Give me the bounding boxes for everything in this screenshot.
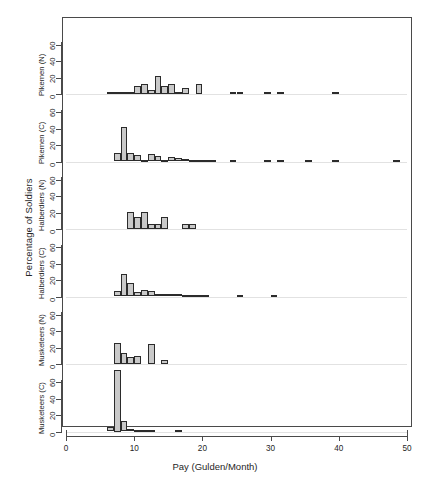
histogram-bar: [264, 160, 271, 162]
histogram-bar: [141, 160, 148, 162]
histogram-bar: [161, 360, 168, 364]
histogram-bar: [175, 92, 182, 94]
histogram-bar: [332, 160, 339, 162]
chart-root: Percentage of Soldiers 0204060Pikemen (N…: [0, 0, 430, 487]
panel-y-axis-line: [61, 110, 62, 163]
histogram-bar: [182, 224, 189, 229]
histogram-bar: [277, 160, 284, 162]
histogram-bar: [141, 84, 148, 94]
x-tick-mark: [271, 436, 272, 441]
panel-label: Pikemen (N): [37, 54, 46, 96]
histogram-bar: [134, 356, 141, 364]
x-tick-mark: [66, 436, 67, 441]
histogram-bar: [114, 92, 121, 94]
histogram-bar: [237, 92, 244, 94]
histogram-bar: [148, 430, 155, 432]
y-tick-label: 0: [48, 432, 57, 436]
y-tick-label: 0: [48, 162, 57, 166]
panel-baseline: [66, 364, 407, 365]
y-tick-label: 40: [48, 58, 57, 66]
y-tick-label: 0: [48, 365, 57, 369]
histogram-bar: [155, 294, 162, 297]
y-tick-label: 0: [48, 230, 57, 234]
histogram-bar: [277, 92, 284, 94]
histogram-bar: [196, 84, 203, 94]
histogram-bar: [189, 224, 196, 229]
panel-label: Halberdiers (C): [37, 247, 46, 298]
histogram-bar: [114, 153, 121, 161]
x-axis-title: Pay (Gulden/Month): [0, 461, 430, 472]
histogram-bar: [141, 430, 148, 432]
histogram-bar: [148, 154, 155, 161]
panel-baseline: [66, 229, 407, 230]
panel-label: Musketeers (N): [37, 314, 46, 366]
y-tick-label: 60: [48, 379, 57, 387]
histogram-bar: [134, 155, 141, 162]
histogram-bar: [175, 158, 182, 161]
histogram-bar: [230, 92, 237, 94]
histogram-bar: [148, 344, 155, 364]
histogram-bar: [332, 92, 339, 94]
x-tick-mark: [134, 436, 135, 441]
panel-label: Halberdiers (N): [37, 180, 46, 231]
histogram-bar: [161, 217, 168, 229]
y-tick-label: 20: [48, 344, 57, 352]
histogram-bar: [114, 370, 121, 432]
histogram-bar: [148, 90, 155, 94]
y-tick-label: 60: [48, 311, 57, 319]
histogram-bar: [134, 217, 141, 229]
histogram-bar: [155, 156, 162, 162]
histogram-bar: [168, 84, 175, 94]
x-tick-label: 0: [64, 444, 69, 453]
histogram-bar: [127, 283, 134, 297]
histogram-bar: [182, 295, 189, 297]
y-tick-label: 0: [48, 297, 57, 301]
histogram-bar: [127, 153, 134, 161]
histogram-bar: [202, 160, 209, 162]
histogram-bar: [114, 291, 121, 297]
y-tick-label: 0: [48, 95, 57, 99]
histogram-bar: [161, 86, 168, 94]
histogram-bar: [141, 290, 148, 297]
histogram-bar: [161, 160, 168, 162]
x-tick-label: 50: [402, 444, 411, 453]
y-tick-label: 60: [48, 244, 57, 252]
histogram-bar: [127, 92, 134, 94]
x-tick-mark: [407, 436, 408, 441]
y-tick-label: 20: [48, 412, 57, 420]
x-tick-mark: [202, 436, 203, 441]
histogram-bar: [189, 295, 196, 297]
histogram-bar: [182, 159, 189, 161]
histogram-bar: [196, 160, 203, 162]
histogram-bar: [127, 212, 134, 229]
histogram-bar: [121, 127, 128, 161]
histogram-bar: [168, 157, 175, 161]
histogram-bar: [175, 430, 182, 432]
histogram-bar: [114, 343, 121, 364]
histogram-bar: [155, 76, 162, 94]
panel-y-axis-line: [61, 380, 62, 433]
panel-baseline: [66, 162, 407, 163]
histogram-bar: [182, 88, 189, 94]
panel-label: Pikemen (C): [37, 121, 46, 163]
histogram-bar: [148, 291, 155, 297]
y-tick-label: 20: [48, 74, 57, 82]
panel-y-axis-line: [61, 42, 62, 95]
histogram-bar: [305, 160, 312, 162]
histogram-bar: [237, 295, 244, 297]
histogram-bar: [271, 295, 278, 297]
histogram-bar: [121, 353, 128, 364]
histogram-bar: [202, 295, 209, 297]
histogram-bar: [121, 92, 128, 94]
histogram-bar: [175, 294, 182, 296]
histogram-bar: [107, 427, 114, 431]
histogram-bar: [209, 160, 216, 162]
y-tick-label: 60: [48, 176, 57, 184]
panel-y-axis-line: [61, 312, 62, 365]
y-tick-label: 60: [48, 41, 57, 49]
plot-frame: [62, 17, 412, 427]
x-tick-mark: [339, 436, 340, 441]
panel-label: Musketeers (C): [37, 382, 46, 434]
histogram-bar: [161, 294, 168, 296]
y-tick-label: 40: [48, 125, 57, 133]
